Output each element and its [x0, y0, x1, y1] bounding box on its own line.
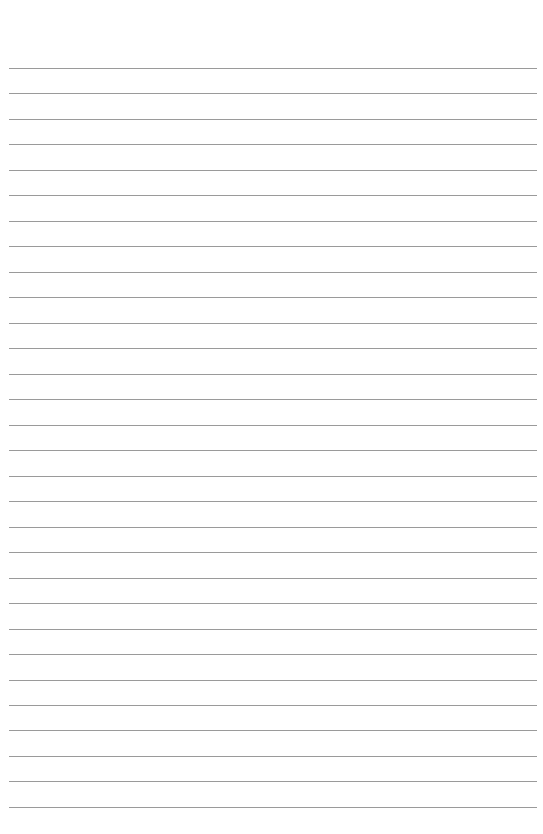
ruled-line [9, 578, 537, 579]
ruled-line [9, 476, 537, 477]
ruled-line [9, 603, 537, 604]
ruled-line [9, 246, 537, 247]
ruled-line [9, 501, 537, 502]
ruled-line [9, 221, 537, 222]
ruled-line [9, 374, 537, 375]
ruled-line [9, 425, 537, 426]
ruled-line [9, 552, 537, 553]
ruled-line [9, 144, 537, 145]
ruled-line [9, 272, 537, 273]
ruled-line [9, 170, 537, 171]
ruled-line [9, 756, 537, 757]
ruled-line [9, 807, 537, 808]
ruled-line [9, 730, 537, 731]
ruled-line [9, 450, 537, 451]
ruled-line [9, 629, 537, 630]
ruled-line [9, 323, 537, 324]
ruled-line [9, 399, 537, 400]
ruled-line [9, 297, 537, 298]
lined-paper-sheet [0, 0, 543, 834]
ruled-line [9, 119, 537, 120]
ruled-line [9, 705, 537, 706]
ruled-line [9, 654, 537, 655]
ruled-line [9, 348, 537, 349]
ruled-line [9, 680, 537, 681]
ruled-line [9, 93, 537, 94]
ruled-line [9, 527, 537, 528]
ruled-line [9, 781, 537, 782]
ruled-line [9, 68, 537, 69]
ruled-line [9, 195, 537, 196]
